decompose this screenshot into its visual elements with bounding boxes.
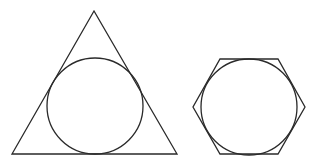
- hexagon-incircle: [201, 59, 297, 155]
- hexagon: [193, 59, 305, 154]
- triangle: [12, 11, 177, 154]
- triangle-incircle: [47, 58, 143, 154]
- hexagon-figure: [193, 59, 305, 155]
- geometry-diagram: [0, 0, 316, 168]
- triangle-figure: [12, 11, 177, 154]
